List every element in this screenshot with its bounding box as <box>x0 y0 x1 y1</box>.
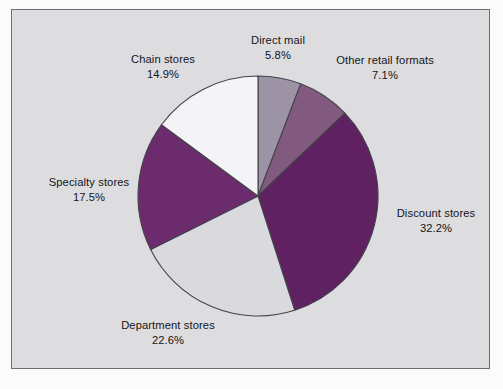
slice-label-discount-stores: Discount stores 32.2% <box>375 206 497 235</box>
slice-label-name: Chain stores <box>101 52 225 67</box>
slice-label-department-stores: Department stores 22.6% <box>92 318 244 347</box>
slice-label-name: Direct mail <box>218 33 338 48</box>
pie-slice-group <box>138 76 378 316</box>
slice-label-value: 22.6% <box>92 333 244 348</box>
slice-label-name: Discount stores <box>375 206 497 221</box>
slice-label-specialty-stores: Specialty stores 17.5% <box>22 175 156 204</box>
slice-label-name: Department stores <box>92 318 244 333</box>
slice-label-name: Specialty stores <box>22 175 156 190</box>
slice-label-value: 32.2% <box>375 221 497 236</box>
slice-label-value: 14.9% <box>101 67 225 82</box>
slice-label-value: 7.1% <box>311 68 459 83</box>
slice-label-other-retail-formats: Other retail formats 7.1% <box>311 53 459 82</box>
slice-label-chain-stores: Chain stores 14.9% <box>101 52 225 81</box>
chart-figure: Direct mail 5.8% Other retail formats 7.… <box>0 0 503 389</box>
slice-label-value: 17.5% <box>22 190 156 205</box>
slice-label-name: Other retail formats <box>311 53 459 68</box>
